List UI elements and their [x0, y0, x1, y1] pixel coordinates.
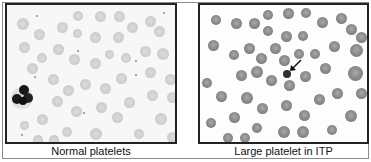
caption-normal-platelets: Normal platelets: [5, 145, 177, 157]
large-platelet-itp-image: [198, 3, 369, 144]
caption-large-platelet-itp: Large platelet in ITP: [198, 145, 369, 157]
normal-platelets-image: [5, 3, 177, 144]
neutrophil: [7, 5, 177, 144]
arrow-icon: [290, 60, 301, 71]
large-platelet: [283, 70, 291, 78]
